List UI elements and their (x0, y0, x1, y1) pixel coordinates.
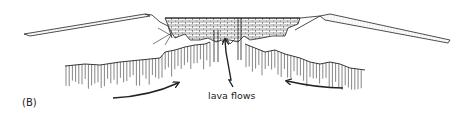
mantle-right (245, 44, 365, 90)
central-lava-pile (165, 18, 300, 42)
arrow-left-converging (113, 83, 178, 98)
rift-cross-section-diagram: (B) lava flows (0, 0, 474, 118)
lava-flows-label: lava flows (208, 90, 255, 101)
lava-flows-pointer (225, 40, 233, 87)
panel-label: (B) (22, 97, 37, 108)
left-volcanic-slope (24, 14, 172, 45)
arrow-right-converging (287, 81, 343, 88)
mantle-left (65, 42, 210, 89)
right-volcanic-slope (295, 14, 450, 43)
